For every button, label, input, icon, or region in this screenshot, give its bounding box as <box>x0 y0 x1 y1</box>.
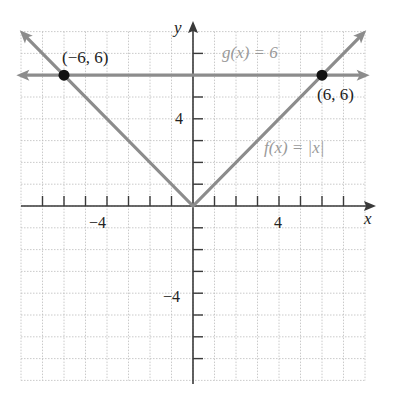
x-tick-label-4: 4 <box>274 214 282 231</box>
y-tick-label-4: 4 <box>175 110 183 127</box>
y-tick-label-neg4: −4 <box>163 288 180 305</box>
g-function-label: g(x) = 6 <box>222 43 278 62</box>
coordinate-plane: x y −4 4 4 −4 (−6, 6) (6, 6) g(x) = 6 f(… <box>0 0 394 404</box>
point-label-left: (−6, 6) <box>62 48 108 67</box>
intersection-point <box>59 70 70 81</box>
x-axis-label: x <box>363 209 372 228</box>
intersection-point <box>317 70 328 81</box>
point-label-right: (6, 6) <box>317 85 354 104</box>
x-tick-label-neg4: −4 <box>89 214 106 231</box>
f-function-label: f(x) = |x| <box>264 138 324 157</box>
y-axis-label: y <box>172 18 182 37</box>
